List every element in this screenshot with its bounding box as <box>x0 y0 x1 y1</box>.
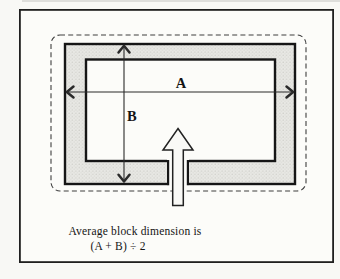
caption-line-2: (A + B) ÷ 2 <box>90 240 145 253</box>
caption-line-1: Average block dimension is <box>68 225 201 238</box>
dimension-label-a: A <box>176 75 187 91</box>
dimension-label-b: B <box>127 108 137 124</box>
block-dimension-diagram: A B Average block dimension is (A + B) ÷… <box>0 0 340 279</box>
figure-canvas: A B Average block dimension is (A + B) ÷… <box>0 0 340 279</box>
